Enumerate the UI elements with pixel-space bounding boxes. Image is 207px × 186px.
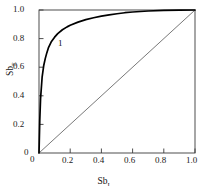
x-tick-label-0.6: 0.6 bbox=[124, 156, 135, 165]
x-tick-label-0.4: 0.4 bbox=[93, 156, 104, 165]
y-axis-title-subscript: E bbox=[10, 62, 17, 66]
curve-label-1: 1 bbox=[58, 39, 63, 48]
y-tick-label-0: 0 bbox=[24, 148, 29, 157]
x-tick-label-0: 0 bbox=[30, 155, 35, 164]
x-tick-label-1.0: 1.0 bbox=[186, 156, 197, 165]
y-tick-label-0.8: 0.8 bbox=[13, 34, 24, 43]
y-axis-title: SbE bbox=[0, 51, 13, 87]
x-tick-label-0.8: 0.8 bbox=[155, 156, 166, 165]
y-tick-label-1.0: 1.0 bbox=[13, 5, 24, 14]
y-tick-label-0.4: 0.4 bbox=[13, 91, 24, 100]
x-tick-label-0.2: 0.2 bbox=[62, 156, 73, 165]
x-axis-title-text: Sb bbox=[97, 176, 107, 186]
x-axis-title: SbI bbox=[0, 170, 207, 186]
y-axis-title-text: Sb bbox=[5, 66, 15, 76]
y-tick-label-0.2: 0.2 bbox=[13, 120, 24, 129]
x-axis-title-subscript: I bbox=[107, 181, 109, 186]
